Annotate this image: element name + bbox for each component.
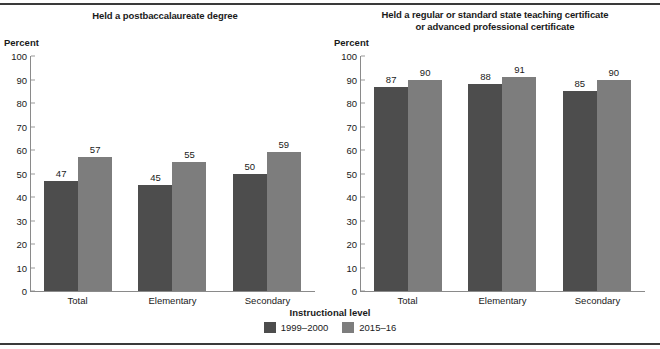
bar-group: 4555 [125,56,219,291]
bottom-divider-rule [0,343,660,345]
y-axis-tick-label: 30 [346,215,361,226]
bar-group-bars: 4757 [31,56,125,291]
x-axis-category-label: Secondary [550,295,645,306]
bar-column[interactable]: 59 [267,56,301,291]
bar-value-label: 87 [374,74,408,85]
bar-value-label: 59 [267,139,301,150]
panel-title-line-2: or advanced professional certificate [330,21,660,33]
bar-value-label: 50 [233,161,267,172]
y-axis-tick-label: 30 [16,215,31,226]
bar-column[interactable]: 91 [502,56,536,291]
y-axis-tick-label: 40 [346,192,361,203]
y-axis-tick-label: 80 [346,98,361,109]
bar-value-label: 90 [408,67,442,78]
bar-group-bars: 4555 [125,56,219,291]
legend-swatch-icon [342,322,354,333]
bar[interactable] [597,80,631,292]
bar-column[interactable]: 85 [563,56,597,291]
bar-column[interactable]: 47 [44,56,78,291]
x-axis-category-labels: TotalElementarySecondary [360,295,645,306]
bar[interactable] [374,87,408,291]
y-axis-tick-label: 50 [346,168,361,179]
panel-title-line-1: Held a regular or standard state teachin… [330,9,660,21]
y-axis-tick-label: 90 [346,74,361,85]
bar-value-label: 45 [138,172,172,183]
chart-panel-teaching-certificate: Held a regular or standard state teachin… [330,6,660,306]
plot-area: 1009080706050403020100 475745555059 [30,56,314,291]
bar[interactable] [172,162,206,291]
bar-value-label: 47 [44,168,78,179]
bar-column[interactable]: 88 [468,56,502,291]
plot-area: 1009080706050403020100 879088918590 [360,56,644,291]
chart-panel-postbaccalaureate-degree: Held a postbaccalaureate degree Percent … [0,6,330,306]
bar[interactable] [408,80,442,292]
bar-group: 8790 [361,56,455,291]
bar-value-label: 88 [468,71,502,82]
y-axis-tick-label: 70 [346,121,361,132]
bar[interactable] [44,181,78,291]
bar[interactable] [502,77,536,291]
y-axis-unit-label: Percent [4,37,39,48]
x-axis-baseline [30,291,315,292]
bar-column[interactable]: 57 [78,56,112,291]
bar-groups: 475745555059 [31,56,314,291]
bar-column[interactable]: 45 [138,56,172,291]
bar-group-bars: 8790 [361,56,455,291]
x-axis-baseline [360,291,645,292]
x-axis-category-label: Total [30,295,125,306]
y-axis-tick-label: 100 [11,51,31,62]
chart-panels-container: Held a postbaccalaureate degree Percent … [0,6,660,306]
legend-item[interactable]: 1999–2000 [264,322,329,333]
bar-group-bars: 8891 [455,56,549,291]
bar-value-label: 85 [563,78,597,89]
panel-title: Held a regular or standard state teachin… [330,9,660,32]
bar-group: 8891 [455,56,549,291]
bar-group: 5059 [220,56,314,291]
bar-value-label: 55 [172,149,206,160]
x-axis-category-label: Elementary [455,295,550,306]
bar[interactable] [563,91,597,291]
x-axis-title: Instructional level [0,307,660,318]
bar-column[interactable]: 55 [172,56,206,291]
bar[interactable] [267,152,301,291]
x-axis-category-labels: TotalElementarySecondary [30,295,315,306]
y-axis-tick-label: 100 [341,51,361,62]
bar[interactable] [78,157,112,291]
bar[interactable] [138,185,172,291]
y-axis-tick-label: 20 [16,239,31,250]
legend-item[interactable]: 2015–16 [342,322,396,333]
chart-legend: 1999–20002015–16 [0,322,660,333]
bar-group: 8590 [550,56,644,291]
y-axis-tick-label: 10 [16,262,31,273]
x-axis-category-label: Total [360,295,455,306]
y-axis-tick-label: 90 [16,74,31,85]
bar-column[interactable]: 90 [408,56,442,291]
x-axis-category-label: Secondary [220,295,315,306]
x-axis-category-label: Elementary [125,295,220,306]
bar-value-label: 90 [597,67,631,78]
y-axis-tick-label: 50 [16,168,31,179]
bar-group-bars: 5059 [220,56,314,291]
y-axis-tick-label: 10 [346,262,361,273]
legend-item-label: 1999–2000 [281,322,329,333]
bar-group: 4757 [31,56,125,291]
legend-swatch-icon [264,322,276,333]
bar-value-label: 57 [78,144,112,155]
bar-column[interactable]: 90 [597,56,631,291]
top-divider-rule [0,3,660,5]
bar-column[interactable]: 87 [374,56,408,291]
bar-column[interactable]: 50 [233,56,267,291]
y-axis-unit-label: Percent [334,37,369,48]
y-axis-tick-label: 70 [16,121,31,132]
bar[interactable] [233,174,267,292]
y-axis-tick-label: 20 [346,239,361,250]
panel-title-line-1: Held a postbaccalaureate degree [0,10,330,22]
y-axis-tick-label: 40 [16,192,31,203]
y-axis-tick-label: 60 [16,145,31,156]
bar-value-label: 91 [502,64,536,75]
legend-item-label: 2015–16 [359,322,396,333]
bar-group-bars: 8590 [550,56,644,291]
bar-groups: 879088918590 [361,56,644,291]
bar[interactable] [468,84,502,291]
y-axis-tick-label: 60 [346,145,361,156]
